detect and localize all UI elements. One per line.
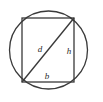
label-d: d <box>38 44 43 54</box>
label-b: b <box>45 71 50 81</box>
label-h: h <box>67 46 72 56</box>
figure-canvas: d h b <box>0 0 103 102</box>
geometry-figure: d h b <box>0 0 103 102</box>
